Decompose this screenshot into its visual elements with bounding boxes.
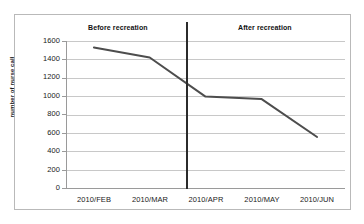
x-axis-tick-labels: 2010/FEB 2010/MAR 2010/APR 2010/MAY 2010… (66, 195, 345, 209)
y-axis-title: number of nurse call (9, 49, 15, 125)
x-tick-label-feb: 2010/FEB (77, 195, 111, 205)
x-tick-label-may: 2010/MAY (244, 195, 279, 205)
annotation-before-recreation: Before recreation (88, 24, 148, 31)
x-tick-label-apr: 2010/APR (189, 195, 224, 205)
recreation-divider-line (186, 22, 188, 189)
data-series-line (0, 0, 364, 224)
annotation-after-recreation: After recreation (238, 24, 292, 31)
x-tick-label-jun: 2010/JUN (300, 195, 334, 205)
x-tick-label-mar: 2010/MAR (132, 195, 168, 205)
chart-figure: 1600 1400 1200 1000 800 600 400 200 0 Be… (0, 0, 364, 224)
series-polyline (94, 47, 317, 137)
